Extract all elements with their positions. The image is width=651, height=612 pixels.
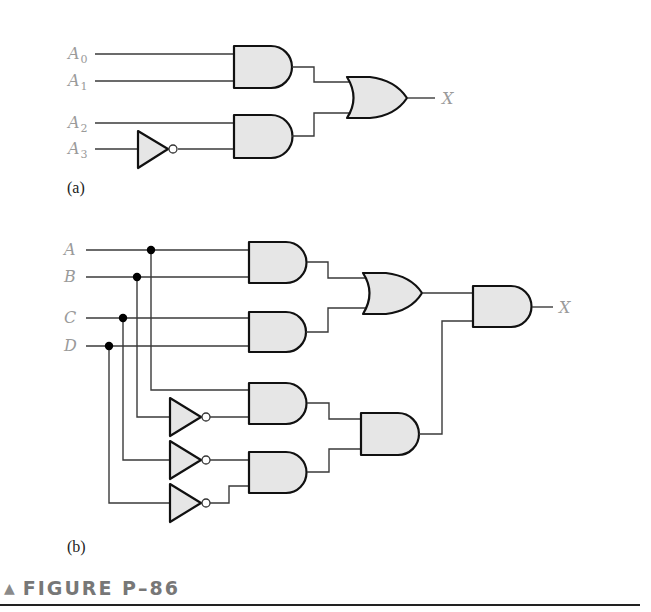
output-label-x-b: X — [557, 298, 571, 317]
and-gate-ab — [249, 242, 306, 283]
input-label-c: C — [64, 308, 76, 327]
tap-c-to-not — [123, 318, 170, 460]
output-label-x-a: X — [440, 89, 454, 108]
wire-and5-to-final — [419, 321, 474, 434]
figure-caption-text: FIGURE P–86 — [23, 577, 180, 599]
or-gate-a — [347, 77, 407, 118]
part-label-a: (a) — [67, 179, 85, 197]
logic-circuit-diagram: A0 A1 A2 A3 X (a) A B C D — [0, 0, 651, 612]
input-label-a1: A1 — [66, 71, 88, 93]
inversion-bubble-c — [202, 456, 210, 464]
not-gate-a3 — [138, 131, 168, 168]
input-label-d: D — [63, 336, 77, 355]
wire-not-d-out — [210, 486, 249, 503]
triangle-marker-icon: ▲ — [4, 580, 15, 596]
figure-caption: ▲ FIGURE P–86 — [4, 577, 180, 599]
wire-and-ab-to-or — [307, 262, 366, 278]
circuit-a: A0 A1 A2 A3 X (a) — [66, 44, 454, 197]
and-gate-a-top — [234, 46, 292, 88]
and-gate-notc-notd — [249, 452, 306, 493]
input-label-a2: A2 — [66, 113, 88, 135]
and-gate-a-bottom — [234, 115, 293, 158]
caption-rule — [0, 604, 640, 606]
wire-and-cd-to-or — [306, 308, 366, 332]
inversion-bubble-b — [202, 413, 210, 421]
tap-a-to-and3 — [151, 250, 249, 390]
not-gate-c — [170, 441, 201, 479]
and-gate-a-notb — [249, 383, 306, 424]
junction-dot-a — [147, 246, 155, 254]
junction-dot-d — [105, 342, 113, 350]
tap-b-to-not — [137, 277, 170, 417]
wire-and1-to-or — [292, 67, 351, 82]
not-gate-d — [170, 484, 201, 522]
and-gate-lower-combine — [361, 413, 419, 455]
part-label-b: (b) — [67, 538, 86, 556]
wire-and4-to-and5 — [307, 449, 362, 472]
wire-and3-to-and5 — [307, 403, 362, 419]
inversion-bubble-d — [202, 499, 210, 507]
and-gate-cd — [249, 312, 306, 352]
junction-dot-b — [133, 273, 141, 281]
circuit-b: A B C D — [62, 240, 571, 556]
input-label-a: A — [62, 240, 76, 259]
or-gate-b — [363, 273, 422, 314]
inversion-bubble — [169, 145, 177, 153]
tap-d-to-not — [109, 346, 170, 503]
not-gate-b — [170, 398, 201, 436]
and-gate-final — [473, 286, 532, 327]
wire-and2-to-or — [292, 113, 351, 136]
input-label-a0: A0 — [66, 44, 88, 66]
input-label-b: B — [63, 267, 76, 286]
junction-dot-c — [119, 314, 127, 322]
input-label-a3: A3 — [66, 139, 88, 161]
